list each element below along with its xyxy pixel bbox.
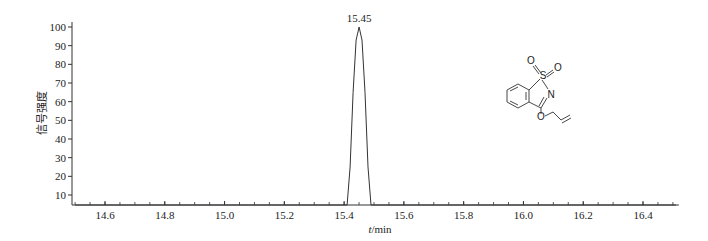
- x-axis-title: t/min: [368, 223, 392, 235]
- atom-label-s: S: [540, 70, 547, 81]
- chromatogram-chart: 102030405060708090100 14.614.815.015.215…: [0, 0, 708, 241]
- y-tick-label: 20: [55, 170, 67, 182]
- x-tick-label: 15.2: [275, 209, 294, 221]
- x-tick-label: 14.6: [95, 209, 115, 221]
- y-tick-label: 40: [55, 133, 67, 145]
- chromatogram-trace: [75, 27, 679, 205]
- atom-label-o1: O: [527, 55, 535, 66]
- atom-label-o2: O: [554, 62, 562, 73]
- y-axis-title: 信号强度: [35, 91, 49, 135]
- y-tick-label: 10: [55, 189, 67, 201]
- chemical-structure-labels: S O O N O: [527, 55, 562, 122]
- x-tick-label: 15.0: [215, 209, 235, 221]
- x-tick-label: 16.0: [514, 209, 534, 221]
- y-tick-label: 100: [50, 21, 67, 33]
- y-tick-label: 60: [55, 96, 67, 108]
- y-tick-label: 90: [55, 40, 67, 52]
- y-tick-label: 30: [55, 152, 67, 164]
- x-tick-label: 15.4: [334, 209, 354, 221]
- x-tick-label: 14.8: [155, 209, 175, 221]
- y-tick-label: 80: [55, 58, 67, 70]
- peak-annotations: 15.45: [347, 12, 372, 24]
- y-axis-ticks: 102030405060708090100: [50, 21, 73, 201]
- atom-label-o3: O: [537, 111, 545, 122]
- x-tick-label: 16.4: [633, 209, 653, 221]
- axes: [72, 22, 676, 205]
- atom-label-n: N: [547, 89, 554, 100]
- x-tick-label: 16.2: [574, 209, 593, 221]
- series-line: [75, 27, 679, 205]
- peak-label: 15.45: [347, 12, 372, 24]
- x-tick-label: 15.8: [454, 209, 474, 221]
- y-tick-label: 70: [55, 77, 67, 89]
- y-tick-label: 50: [55, 114, 67, 126]
- x-tick-label: 15.6: [394, 209, 414, 221]
- x-axis-ticks: 14.614.815.015.215.415.615.816.016.216.4: [75, 201, 673, 221]
